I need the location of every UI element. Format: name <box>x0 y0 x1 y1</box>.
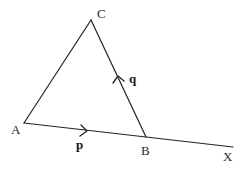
segment-ac <box>24 20 91 123</box>
label-vector-p: p <box>76 137 83 152</box>
line-ax <box>24 123 233 147</box>
segment-cb <box>91 20 146 137</box>
triangle-vector-diagram: C A B X p q <box>0 0 234 170</box>
label-c: C <box>97 6 106 21</box>
label-a: A <box>11 122 21 137</box>
label-x: X <box>223 149 233 164</box>
arrow-p-icon <box>80 125 87 136</box>
label-vector-q: q <box>129 71 137 86</box>
label-b: B <box>141 143 150 158</box>
